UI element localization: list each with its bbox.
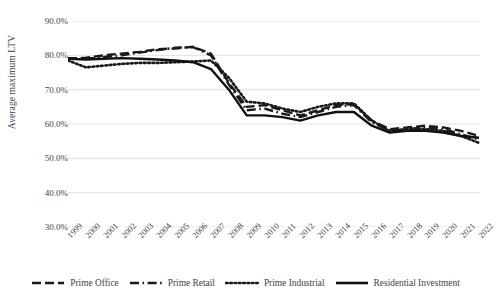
dashed-line-swatch [31, 278, 65, 288]
legend-item[interactable]: Prime Retail [129, 277, 215, 289]
plot-svg [68, 21, 480, 227]
legend-item-label: Residential Investment [374, 277, 460, 289]
y-axis-tick-labels: 30.0%40.0%50.0%60.0%70.0%80.0%90.0% [22, 0, 68, 301]
legend-item-label: Prime Industrial [264, 277, 325, 289]
dashdot-line-swatch [129, 278, 163, 288]
solid-line-swatch [335, 278, 369, 288]
y-axis-tick-label: 60.0% [22, 119, 68, 129]
plot-area [68, 21, 480, 227]
legend-item[interactable]: Residential Investment [335, 277, 460, 289]
legend-item-label: Prime Retail [168, 277, 215, 289]
y-axis-tick-label: 50.0% [22, 153, 68, 163]
legend-item-label: Prime Office [70, 277, 119, 289]
legend-item[interactable]: Prime Office [31, 277, 119, 289]
y-axis-tick-label: 70.0% [22, 85, 68, 95]
y-axis-tick-label: 30.0% [22, 222, 68, 232]
chart-legend: Prime OfficePrime RetailPrime Industrial… [0, 272, 491, 294]
y-axis-tick-label: 40.0% [22, 188, 68, 198]
y-axis-title: Average maximum LTV [2, 0, 22, 185]
series-line [68, 47, 479, 136]
dotted-line-swatch [225, 278, 259, 288]
legend-item[interactable]: Prime Industrial [225, 277, 325, 289]
y-axis-tick-label: 80.0% [22, 50, 68, 60]
y-axis-tick-label: 90.0% [22, 16, 68, 26]
